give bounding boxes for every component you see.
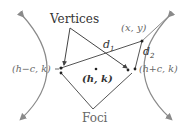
vertices-label: Vertices — [49, 12, 99, 26]
vertices-pointer-left — [64, 28, 70, 65]
center-label: (h, k) — [82, 73, 113, 85]
hyperbola-diagram: Vertices Foci (x, y) (h, k) (h−c, k) (h+… — [0, 0, 189, 132]
left-vertex-dot — [60, 72, 63, 75]
point-xy-dot — [141, 40, 144, 43]
d1-line — [61, 41, 142, 68]
right-focus-dot — [134, 68, 137, 71]
left-focus-label: (h−c, k) — [12, 63, 51, 74]
foci-label: Foci — [82, 111, 108, 125]
right-focus-label: (h+c, k) — [139, 63, 178, 74]
d2-label: d2 — [143, 45, 155, 60]
d1-label: d1 — [103, 38, 115, 53]
center-dot — [95, 68, 98, 71]
point-xy-label: (x, y) — [121, 22, 147, 33]
right-vertex-dot — [127, 69, 130, 72]
left-focus-dot — [59, 66, 62, 69]
